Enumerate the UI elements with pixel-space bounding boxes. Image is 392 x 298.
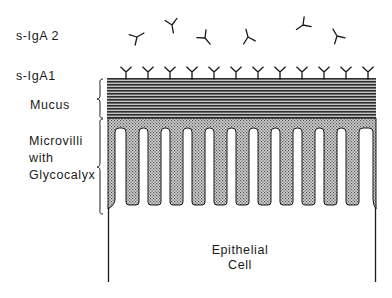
- mucus-layer: [107, 78, 376, 118]
- bound-s-iga1-antibody: [275, 67, 286, 79]
- free-s-iga2-antibody: [165, 18, 179, 33]
- bound-s-iga1-antibody: [143, 67, 154, 79]
- label-cell: Cell: [195, 257, 285, 273]
- free-s-iga2-antibody: [293, 17, 311, 35]
- label-s-iga2: s-IgA 2: [16, 28, 59, 44]
- brace-microvilli: [97, 119, 103, 214]
- bound-s-iga1-antibody: [165, 67, 176, 79]
- label-s-iga1: s-IgA1: [16, 68, 56, 84]
- free-s-iga2-antibody: [240, 28, 255, 44]
- free-s-iga2-antibody: [129, 28, 147, 45]
- bound-antibodies: [121, 67, 374, 79]
- label-mucus: Mucus: [30, 97, 70, 113]
- bound-s-iga1-antibody: [209, 67, 220, 79]
- free-s-iga2-antibody: [197, 30, 215, 48]
- label-with: with: [29, 150, 54, 166]
- bound-s-iga1-antibody: [231, 67, 242, 79]
- glycocalyx-body: [108, 118, 376, 209]
- bound-s-iga1-antibody: [341, 67, 352, 79]
- brace-mucus: [97, 79, 103, 118]
- bound-s-iga1-antibody: [297, 67, 308, 79]
- microvilli-layer: [108, 118, 376, 209]
- bound-s-iga1-antibody: [319, 67, 330, 79]
- bound-s-iga1-antibody: [253, 67, 264, 79]
- label-microvilli: Microvilli: [29, 133, 83, 149]
- bound-s-iga1-antibody: [121, 67, 132, 79]
- bound-s-iga1-antibody: [187, 67, 198, 79]
- bound-s-iga1-antibody: [363, 67, 374, 79]
- label-epithelial: Epithelial: [195, 242, 285, 258]
- free-antibodies: [129, 17, 345, 48]
- free-s-iga2-antibody: [328, 26, 345, 44]
- label-glycocalyx: Glycocalyx: [29, 167, 95, 183]
